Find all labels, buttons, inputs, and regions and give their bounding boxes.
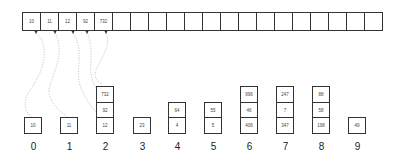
bucket-item: 996 xyxy=(240,86,258,103)
bucket-item: 4 xyxy=(168,117,186,134)
bucket-label: 0 xyxy=(24,141,43,152)
bucket-item: 10 xyxy=(24,117,42,134)
array-cell: 11 xyxy=(41,13,59,30)
bucket-2: 1292732 xyxy=(96,88,115,135)
array-cell xyxy=(293,13,311,30)
array-cell xyxy=(167,13,185,30)
array-cell: 732 xyxy=(95,13,113,30)
bucket-label: 5 xyxy=(204,141,223,152)
bucket-item: 46 xyxy=(240,102,258,119)
bucket-item: 732 xyxy=(96,86,114,103)
array-cell: 92 xyxy=(77,13,95,30)
array-cell xyxy=(257,13,275,30)
bucket-6: 40646996 xyxy=(240,88,259,135)
bucket-label: 2 xyxy=(96,141,115,152)
array-cell xyxy=(275,13,293,30)
bucket-item: 406 xyxy=(240,117,258,134)
bucket-3: 23 xyxy=(133,119,152,135)
array-cell: 12 xyxy=(59,13,77,30)
array-cell xyxy=(311,13,329,30)
bucket-label: 6 xyxy=(240,141,259,152)
bucket-1: 11 xyxy=(60,119,79,135)
bucket-label: 8 xyxy=(312,141,331,152)
bucket-item: 92 xyxy=(96,102,114,119)
bucket-item: 247 xyxy=(276,86,294,103)
array-cell xyxy=(113,13,131,30)
bucket-label: 9 xyxy=(348,141,367,152)
bucket-item: 12 xyxy=(96,117,114,134)
array-cell xyxy=(329,13,347,30)
array-cell: 10 xyxy=(23,13,41,30)
bucket-item: 55 xyxy=(204,102,222,119)
array-cell xyxy=(347,13,365,30)
bucket-item: 23 xyxy=(133,117,151,134)
bucket-item: 347 xyxy=(276,117,294,134)
bucket-label: 4 xyxy=(168,141,187,152)
bucket-label: 7 xyxy=(276,141,295,152)
bucket-4: 464 xyxy=(168,103,187,134)
array-cell xyxy=(365,13,383,30)
bucket-item: 58 xyxy=(312,102,330,119)
bucket-item: 88 xyxy=(312,86,330,103)
bucket-label: 1 xyxy=(60,141,79,152)
bucket-7: 3477247 xyxy=(276,88,295,135)
array-cell xyxy=(221,13,239,30)
array-cell xyxy=(149,13,167,30)
array-cell xyxy=(203,13,221,30)
bucket-9: 49 xyxy=(348,119,367,135)
bucket-item: 7 xyxy=(276,102,294,119)
array-cell xyxy=(239,13,257,30)
bucket-item: 64 xyxy=(168,102,186,119)
bucket-item: 198 xyxy=(312,117,330,134)
bucket-0: 10 xyxy=(24,119,43,135)
bucket-item: 5 xyxy=(204,117,222,134)
array-cell xyxy=(185,13,203,30)
bucket-item: 49 xyxy=(348,117,366,134)
bucket-8: 1985888 xyxy=(312,88,331,135)
bucket-5: 555 xyxy=(204,103,223,134)
array-cell xyxy=(131,13,149,30)
bucket-label: 3 xyxy=(133,141,152,152)
bucket-item: 11 xyxy=(60,117,78,134)
source-array: 10111292732 xyxy=(22,12,383,31)
